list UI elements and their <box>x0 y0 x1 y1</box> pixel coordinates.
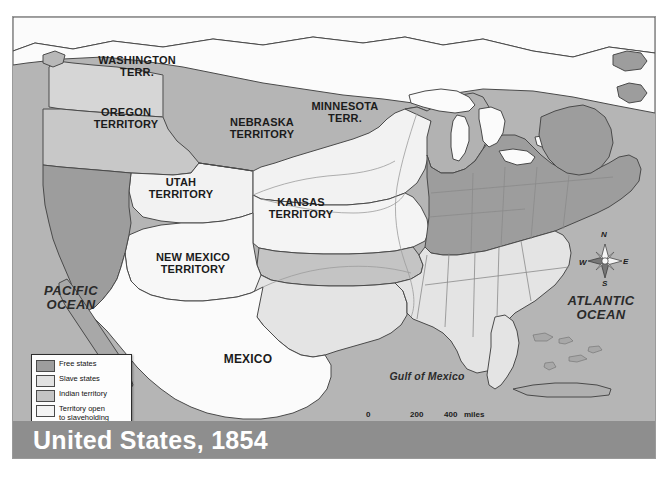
map-page: .bd{stroke:#4a4a4a;stroke-width:1;vector… <box>0 0 667 482</box>
newfoundland-shape <box>613 51 647 71</box>
legend-item-territory-open: Territory open to slaveholding <box>36 404 127 422</box>
legend-item-free-states: Free states <box>36 359 127 372</box>
compass-rose: N E S W <box>578 232 632 290</box>
map-frame: .bd{stroke:#4a4a4a;stroke-width:1;vector… <box>13 17 655 458</box>
slave-states-block <box>395 231 571 373</box>
scale-miles-tick-0: 0 <box>366 410 370 419</box>
scale-miles-tick-200: 200 <box>410 410 423 419</box>
label-utah-territory: UTAH TERRITORY <box>129 177 233 201</box>
bahamas-islands <box>533 333 602 370</box>
scale-miles-tick-400: 400 <box>444 410 457 419</box>
compass-west-label: W <box>579 258 587 267</box>
legend-swatch-territory-open <box>36 405 55 417</box>
label-minnesota-territory: MINNESOTA TERR. <box>293 101 397 125</box>
label-atlantic-ocean: ATLANTIC OCEAN <box>549 294 653 322</box>
compass-north-label: N <box>601 230 607 239</box>
legend-swatch-indian-territory <box>36 390 55 402</box>
label-kansas-territory: KANSAS TERRITORY <box>249 197 353 221</box>
label-mexico: MEXICO <box>203 353 293 366</box>
label-washington-territory: WASHINGTON TERR. <box>85 55 189 79</box>
legend-label-indian-territory: Indian territory <box>59 389 107 398</box>
legend-item-slave-states: Slave states <box>36 374 127 387</box>
legend-label-free-states: Free states <box>59 359 97 368</box>
compass-south-label: S <box>602 279 607 288</box>
label-new-mexico-territory: NEW MEXICO TERRITORY <box>129 252 257 276</box>
label-gulf-of-mexico: Gulf of Mexico <box>365 371 489 382</box>
compass-east-label: E <box>623 257 628 266</box>
legend-swatch-free-states <box>36 360 55 372</box>
legend-label-territory-open: Territory open to slaveholding <box>59 404 109 422</box>
legend-swatch-slave-states <box>36 375 55 387</box>
legend-label-slave-states: Slave states <box>59 374 100 383</box>
label-oregon-territory: OREGON TERRITORY <box>69 107 183 131</box>
cuba-shape <box>513 383 611 397</box>
scale-miles-unit: miles <box>464 410 484 419</box>
legend-item-indian-territory: Indian territory <box>36 389 127 402</box>
map-title: United States, 1854 <box>33 426 268 455</box>
label-pacific-ocean: PACIFIC OCEAN <box>23 284 119 312</box>
scale-miles-row: 0 200 400 miles <box>366 410 488 421</box>
